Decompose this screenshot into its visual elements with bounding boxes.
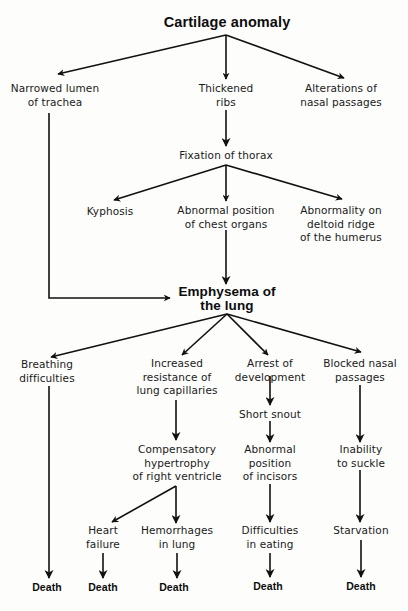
node-death-starvation: Death xyxy=(346,580,376,592)
node-starvation: Starvation xyxy=(333,524,388,538)
edge-emphysema-breathing xyxy=(51,314,227,357)
node-inability-to-suckle: Inability to suckle xyxy=(337,443,385,470)
flowchart-diagram: Cartilage anomaly Narrowed lumen of trac… xyxy=(0,0,408,611)
node-death-breathing: Death xyxy=(32,581,62,593)
node-hemorrhages-in-lung: Hemorrhages in lung xyxy=(141,524,213,551)
node-blocked-nasal-passages: Blocked nasal passages xyxy=(323,357,397,384)
node-emphysema-of-the-lung: Emphysema of the lung xyxy=(178,285,275,312)
node-fixation-of-thorax: Fixation of thorax xyxy=(179,149,273,163)
node-death-eating: Death xyxy=(253,580,283,592)
node-kyphosis: Kyphosis xyxy=(87,205,134,219)
node-death-hemorrhages: Death xyxy=(159,581,189,593)
node-death-heart-failure: Death xyxy=(88,581,118,593)
edge-thorax-deltoid xyxy=(226,165,342,199)
node-heart-failure: Heart failure xyxy=(86,524,120,551)
node-breathing-difficulties: Breathing difficulties xyxy=(19,358,74,385)
edge-cartilage-nasal xyxy=(226,35,344,78)
node-arrest-of-development: Arrest of development xyxy=(235,357,305,384)
node-increased-resistance-lung-capillaries: Increased resistance of lung capillaries xyxy=(136,357,217,398)
node-compensatory-hypertrophy-right-ventricle: Compensatory hypertrophy of right ventri… xyxy=(132,443,221,484)
edge-hypertrophy-heart xyxy=(112,486,176,522)
node-thickened-ribs: Thickened ribs xyxy=(199,82,254,109)
node-abnormality-deltoid-ridge: Abnormality on deltoid ridge of the hume… xyxy=(300,204,382,245)
node-alterations-nasal-passages: Alterations of nasal passages xyxy=(300,82,382,109)
edge-cartilage-trachea xyxy=(58,35,226,74)
node-abnormal-position-chest-organs: Abnormal position of chest organs xyxy=(177,204,274,231)
node-short-snout: Short snout xyxy=(239,408,301,422)
node-abnormal-position-incisors: Abnormal position of incisors xyxy=(243,443,298,484)
node-narrowed-lumen-trachea: Narrowed lumen of trachea xyxy=(11,82,99,109)
node-cartilage-anomaly: Cartilage anomaly xyxy=(164,15,291,30)
edge-thorax-kyphosis xyxy=(114,165,226,200)
node-difficulties-in-eating: Difficulties in eating xyxy=(242,524,299,551)
